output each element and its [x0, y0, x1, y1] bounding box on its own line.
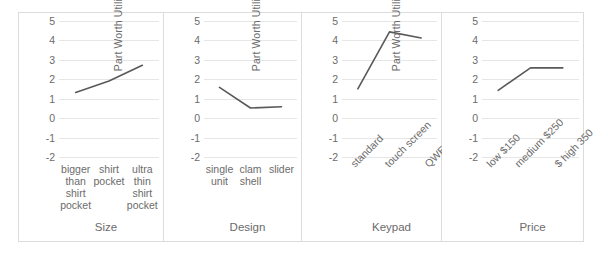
part-worth-utility-chart-grid: Part Worth Utility 543210-1-2 bigger tha…	[18, 12, 584, 242]
chart-panel-size: Part Worth Utility 543210-1-2 bigger tha…	[19, 13, 164, 241]
x-tick-label: bigger than shirt pocket	[59, 163, 92, 211]
x-axis-title: Keypad	[342, 221, 441, 233]
x-axis-title: Design	[194, 221, 301, 233]
y-tick-label: 0	[332, 113, 338, 124]
plot-area-size: 543210-1-2	[59, 21, 159, 157]
x-tick-label: single unit	[204, 163, 235, 187]
y-tick-label: 2	[49, 74, 55, 85]
gridline	[204, 157, 297, 158]
y-tick-label: 3	[194, 55, 200, 66]
y-tick-label: 5	[472, 16, 478, 27]
chart-panel-price: Part Worth Utility 543210-1-2 low $150 m…	[442, 13, 583, 241]
gridline	[204, 118, 297, 119]
y-tick-label: 4	[49, 35, 55, 46]
y-tick-label: -1	[191, 132, 200, 143]
y-axis-title: Part Worth Utility	[250, 0, 264, 91]
gridline	[59, 157, 159, 158]
series-line-price	[482, 21, 579, 118]
y-tick-label: 1	[472, 93, 478, 104]
y-tick-label: 1	[332, 93, 338, 104]
y-tick-label: -1	[329, 132, 338, 143]
y-tick-label: 1	[49, 93, 55, 104]
y-tick-label: 2	[332, 74, 338, 85]
x-tick-labels-size: bigger than shirt pocket shirt pocket ul…	[59, 163, 159, 211]
y-tick-label: 0	[472, 113, 478, 124]
gridline	[342, 138, 437, 139]
series-line-size	[59, 21, 159, 121]
y-tick-label: 5	[332, 16, 338, 27]
y-axis-title: Part Worth Utility	[390, 0, 404, 91]
y-axis-title: Part Worth Utility	[112, 0, 126, 91]
x-tick-label: slider	[266, 163, 297, 187]
x-tick-labels-keypad: standard touch screen QWERTY	[342, 161, 441, 219]
y-tick-label: -2	[329, 152, 338, 163]
y-tick-label: 3	[472, 55, 478, 66]
gridline	[59, 138, 159, 139]
y-tick-label: 4	[472, 35, 478, 46]
y-tick-label: 5	[49, 16, 55, 27]
chart-panel-keypad: Part Worth Utility 543210-1-2 standard t…	[302, 13, 442, 241]
y-tick-label: -2	[191, 152, 200, 163]
x-tick-label: shirt pocket	[92, 163, 125, 211]
chart-panel-design: Part Worth Utility 543210-1-2 single uni…	[164, 13, 302, 241]
plot-area-price: 543210-1-2	[482, 21, 579, 157]
x-tick-labels-price: low $150 medium $250 $ high 350	[482, 161, 583, 219]
y-tick-label: -2	[469, 152, 478, 163]
x-tick-labels-design: single unit clam shell slider	[204, 163, 297, 187]
y-tick-label: 4	[194, 35, 200, 46]
gridline	[482, 138, 579, 139]
y-tick-label: 3	[49, 55, 55, 66]
y-tick-label: -1	[469, 132, 478, 143]
y-tick-label: 5	[194, 16, 200, 27]
y-tick-label: 4	[332, 35, 338, 46]
x-axis-title: Size	[49, 221, 163, 233]
y-tick-label: -2	[46, 152, 55, 163]
y-tick-label: -1	[46, 132, 55, 143]
y-tick-label: 2	[472, 74, 478, 85]
y-tick-label: 1	[194, 93, 200, 104]
y-tick-label: 0	[194, 113, 200, 124]
gridline	[204, 138, 297, 139]
x-tick-label: ultra thin shirt pocket	[126, 163, 159, 211]
x-tick-label: clam shell	[235, 163, 266, 187]
y-tick-label: 3	[332, 55, 338, 66]
gridline	[482, 118, 579, 119]
y-tick-label: 2	[194, 74, 200, 85]
x-axis-title: Price	[482, 221, 583, 233]
y-tick-label: 0	[49, 113, 55, 124]
